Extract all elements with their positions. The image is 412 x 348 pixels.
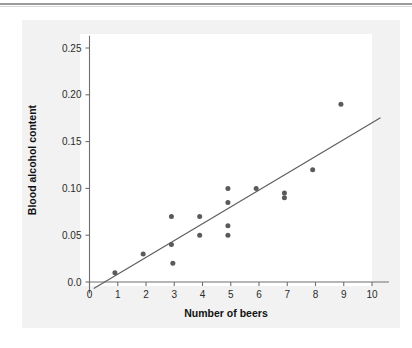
x-tick-label: 1 (115, 289, 121, 300)
data-point (169, 242, 174, 247)
y-tick-label: 0.0 (68, 277, 82, 288)
x-tick-label: 9 (341, 289, 347, 300)
figure-root: 0.00.050.100.150.200.25 012345678910 Num… (0, 0, 412, 348)
x-tick-label: 8 (313, 289, 319, 300)
data-point (225, 200, 230, 205)
x-axis: 012345678910 (87, 282, 389, 300)
x-tick-label: 6 (256, 289, 262, 300)
data-point (254, 186, 259, 191)
regression-line (94, 118, 381, 289)
x-tick-label: 5 (228, 289, 234, 300)
scatter-chart: 0.00.050.100.150.200.25 012345678910 Num… (0, 0, 412, 348)
y-axis: 0.00.050.100.150.200.25 (62, 36, 89, 293)
y-tick-label: 0.15 (62, 136, 82, 147)
x-tick-label: 0 (87, 289, 93, 300)
data-point (225, 223, 230, 228)
data-point (141, 251, 146, 256)
y-tick-label: 0.25 (62, 43, 82, 54)
x-tick-label: 3 (171, 289, 177, 300)
data-points (112, 102, 343, 275)
x-tick-label: 4 (200, 289, 206, 300)
data-point (197, 233, 202, 238)
x-axis-title: Number of beers (184, 307, 268, 319)
data-point (338, 102, 343, 107)
data-point (282, 191, 287, 196)
data-point (225, 186, 230, 191)
data-point (310, 167, 315, 172)
data-point (112, 270, 117, 275)
x-tick-label: 2 (143, 289, 149, 300)
data-point (282, 195, 287, 200)
y-tick-label: 0.20 (62, 89, 82, 100)
y-axis-title: Blood alcohol content (26, 104, 38, 215)
x-tick-label: 10 (366, 289, 378, 300)
y-tick-label: 0.10 (62, 183, 82, 194)
y-tick-label: 0.05 (62, 230, 82, 241)
x-tick-label: 7 (284, 289, 290, 300)
data-point (169, 214, 174, 219)
data-point (170, 261, 175, 266)
data-point (197, 214, 202, 219)
data-point (225, 233, 230, 238)
trend-line (94, 118, 381, 289)
